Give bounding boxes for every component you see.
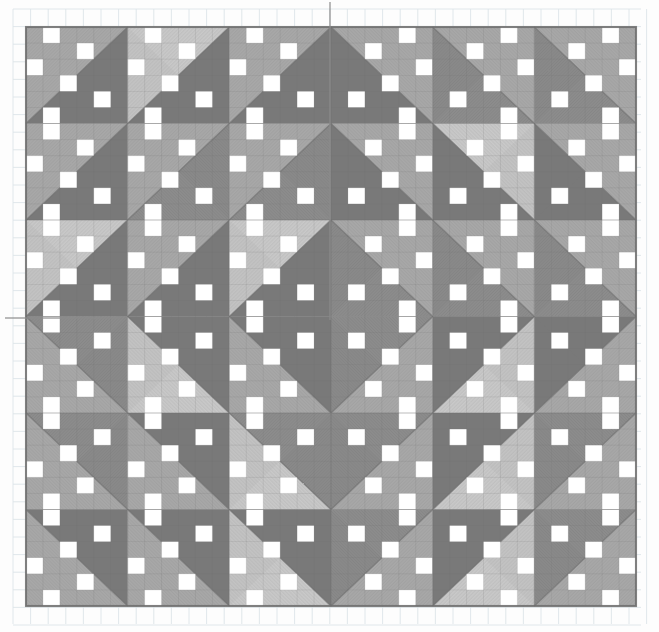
construction-axes [0, 0, 659, 632]
artwork-canvas: Pencil-drawn tessellation quilt pattern … [0, 0, 659, 632]
